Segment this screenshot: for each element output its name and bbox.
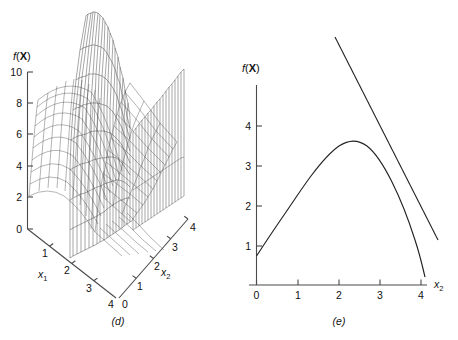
x-tick-label-0: 0 xyxy=(254,289,260,301)
surface-mesh xyxy=(29,12,184,258)
panel-d-caption: (d) xyxy=(112,315,125,327)
x2-tick-1 xyxy=(133,276,137,279)
z-axis-title-close: ) xyxy=(27,50,31,62)
x2-tick-label-3: 3 xyxy=(172,241,178,253)
line-plot-svg: 4 3 2 1 f(X) 0 1 2 3 4 x2 xyxy=(229,0,458,340)
x2-tick-2 xyxy=(150,256,154,259)
y-axis-title: f(X) xyxy=(242,62,260,74)
x2-tick-label-1: 1 xyxy=(137,280,143,292)
y-axis-title-close: ) xyxy=(256,62,260,74)
x-tick-label-3: 3 xyxy=(377,289,383,301)
x1-axis-title: x1 xyxy=(37,268,47,283)
panel-e-line-plot: 4 3 2 1 f(X) 0 1 2 3 4 x2 xyxy=(229,0,458,340)
base-axes-group xyxy=(28,216,189,298)
x1-tick-label-2: 2 xyxy=(64,264,70,276)
x2-tick-label-2: 2 xyxy=(154,260,160,272)
z-tick-label-6: 6 xyxy=(16,128,22,140)
x-axis-title-sub: 2 xyxy=(439,284,443,293)
figure-panels: 10 8 6 4 2 0 f(X) 1 xyxy=(0,0,458,340)
x2-tick-label-0: 0 xyxy=(122,298,128,310)
x1-axis-title-sub: 1 xyxy=(43,274,47,283)
x2-tick-3 xyxy=(167,236,171,239)
x-tick-label-2: 2 xyxy=(336,289,342,301)
y-tick-label-1: 1 xyxy=(245,240,251,252)
y-tick-label-2: 2 xyxy=(245,200,251,212)
z-tick-label-10: 10 xyxy=(10,66,22,78)
mesh-spike xyxy=(70,12,130,258)
z-tick-label-0: 0 xyxy=(16,223,22,235)
x1-tick-label-4: 4 xyxy=(108,298,114,310)
mesh-skirt xyxy=(95,213,164,256)
z-tick-label-4: 4 xyxy=(16,160,22,172)
tangent-line xyxy=(335,37,438,240)
x-tick-label-1: 1 xyxy=(295,289,301,301)
y-tick-label-4: 4 xyxy=(245,120,251,132)
y-tick-label-3: 3 xyxy=(245,160,251,172)
x1-tick-2 xyxy=(72,261,76,264)
mesh-right-wall-rows xyxy=(133,69,184,230)
panel-d-surface-plot: 10 8 6 4 2 0 f(X) 1 xyxy=(0,0,229,340)
z-axis-group xyxy=(28,72,34,229)
x2-axis-title-sub: 2 xyxy=(166,272,170,281)
x2-tick-label-4: 4 xyxy=(190,221,196,233)
x2-tick-4 xyxy=(184,216,188,219)
mesh-right-wall xyxy=(133,69,184,230)
x-axis-title: x2 xyxy=(433,278,443,293)
x2-axis-title: x2 xyxy=(160,266,170,281)
z-tick-label-8: 8 xyxy=(16,97,22,109)
z-axis-title: f(X) xyxy=(13,50,31,62)
surface-plot-svg: 10 8 6 4 2 0 f(X) 1 xyxy=(0,0,229,340)
x-axis-group xyxy=(249,280,427,286)
x1-tick-label-1: 1 xyxy=(42,247,48,259)
x-tick-label-4: 4 xyxy=(418,289,424,301)
x1-tick-1 xyxy=(50,244,54,247)
z-tick-label-2: 2 xyxy=(16,191,22,203)
panel-e-caption: (e) xyxy=(333,315,346,327)
objective-curve xyxy=(257,141,426,277)
x1-tick-label-3: 3 xyxy=(86,282,92,294)
x1-tick-3 xyxy=(94,278,98,281)
